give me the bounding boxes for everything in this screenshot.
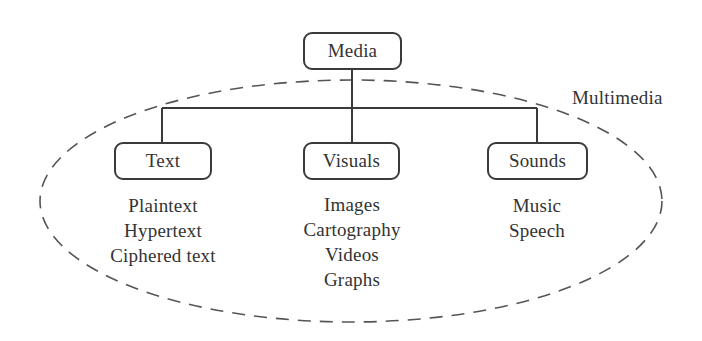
media-node: Media — [303, 32, 402, 70]
list-item: Plaintext — [92, 193, 234, 218]
list-item: Cartography — [281, 217, 423, 242]
sounds-node: Sounds — [487, 142, 588, 180]
sounds-node-label: Sounds — [509, 150, 566, 172]
list-item: Images — [281, 192, 423, 217]
list-item: Speech — [466, 218, 608, 243]
media-node-label: Media — [328, 40, 378, 62]
sounds-items-list: Music Speech — [466, 193, 608, 243]
text-node: Text — [114, 142, 212, 180]
list-item: Music — [466, 193, 608, 218]
list-item: Graphs — [281, 267, 423, 292]
list-item: Ciphered text — [92, 243, 234, 268]
list-item: Hypertext — [92, 218, 234, 243]
visuals-items-list: Images Cartography Videos Graphs — [281, 192, 423, 292]
tree-connectors — [162, 70, 537, 143]
text-node-label: Text — [146, 150, 180, 172]
list-item: Videos — [281, 242, 423, 267]
visuals-node-label: Visuals — [323, 150, 380, 172]
text-items-list: Plaintext Hypertext Ciphered text — [92, 193, 234, 268]
multimedia-group-label: Multimedia — [572, 87, 663, 109]
visuals-node: Visuals — [303, 142, 400, 180]
